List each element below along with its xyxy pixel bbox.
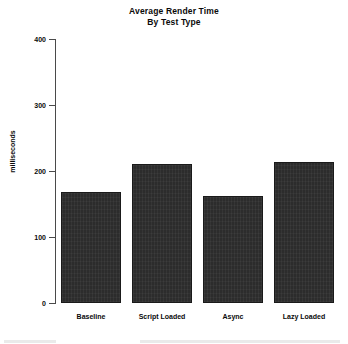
bars-layer — [0, 0, 348, 344]
plot-area: milliseconds 0 100 200 300 400 Baseline … — [0, 0, 348, 344]
bar-async[interactable] — [203, 196, 263, 303]
bar-script-loaded[interactable] — [132, 164, 192, 303]
x-tick-label-lazy-loaded: Lazy Loaded — [262, 313, 346, 321]
bar-chart: Average Render Time By Test Type millise… — [0, 0, 348, 344]
page-edge-artifact-right — [140, 340, 340, 343]
bar-lazy-loaded[interactable] — [274, 162, 334, 303]
bar-baseline[interactable] — [61, 192, 121, 303]
page-edge-artifact-left — [4, 340, 56, 343]
